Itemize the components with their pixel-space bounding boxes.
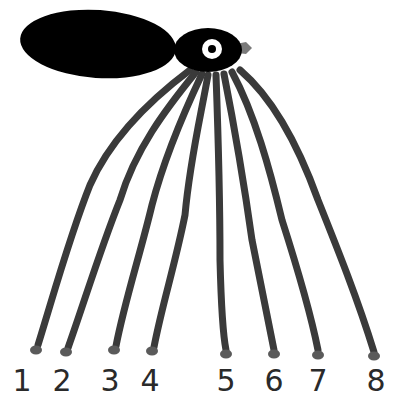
pupil: [208, 45, 216, 53]
feet: [30, 346, 380, 361]
leg-label-8: 8: [366, 366, 385, 396]
foot-8: [368, 352, 380, 361]
foot-3: [108, 346, 120, 355]
foot-5: [220, 350, 232, 359]
leg-label-4: 4: [140, 366, 159, 396]
leg-label-6: 6: [264, 366, 283, 396]
leg-label-5: 5: [216, 366, 235, 396]
leg-5: [216, 75, 226, 350]
foot-6: [268, 350, 280, 359]
leg-label-1: 1: [12, 366, 31, 396]
leg-2: [68, 72, 196, 348]
foot-2: [60, 348, 72, 357]
legs: [38, 70, 374, 352]
foot-7: [312, 351, 324, 360]
creature-illustration: [0, 0, 404, 404]
creature-body: [18, 5, 178, 84]
leg-label-2: 2: [52, 366, 71, 396]
foot-1: [30, 346, 42, 355]
foot-4: [146, 347, 158, 356]
leg-label-7: 7: [308, 366, 327, 396]
leg-label-3: 3: [100, 366, 119, 396]
